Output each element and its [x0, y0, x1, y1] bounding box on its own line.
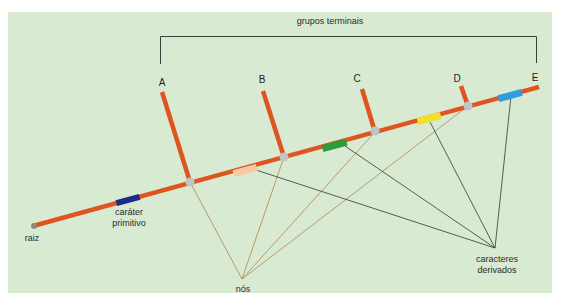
root-label: raiz [25, 233, 40, 243]
branch-c [362, 89, 375, 132]
nodes-label: nós [236, 284, 251, 294]
terminal-groups-bracket [161, 37, 537, 65]
node-pointer-lines [190, 106, 468, 279]
taxon-label-a: A [159, 77, 166, 88]
derived-pointer-lines [256, 96, 511, 248]
root-dot [31, 223, 37, 229]
cladogram: grupos terminais A B C [0, 0, 562, 302]
branch-b [263, 91, 284, 157]
derived-label-line1: caracteres [476, 254, 519, 264]
taxon-label-b: B [259, 74, 266, 85]
primitive-label-line1: caráter [115, 207, 143, 217]
derived-marker-2 [322, 139, 348, 152]
node-b [280, 153, 289, 162]
primitive-label-line2: primitivo [112, 218, 146, 228]
taxon-label-e: E [532, 72, 539, 83]
derived-marker-4 [498, 89, 523, 102]
node-c [371, 127, 380, 136]
branch-a [162, 92, 190, 182]
derived-label-line2: derivados [477, 265, 517, 275]
bracket-label: grupos terminais [297, 16, 364, 26]
derived-marker-3 [417, 112, 442, 125]
primitive-character-marker [116, 194, 141, 206]
taxon-label-c: C [353, 73, 360, 84]
taxon-label-d: D [453, 73, 460, 84]
node-d [464, 102, 473, 111]
node-a [186, 178, 195, 187]
